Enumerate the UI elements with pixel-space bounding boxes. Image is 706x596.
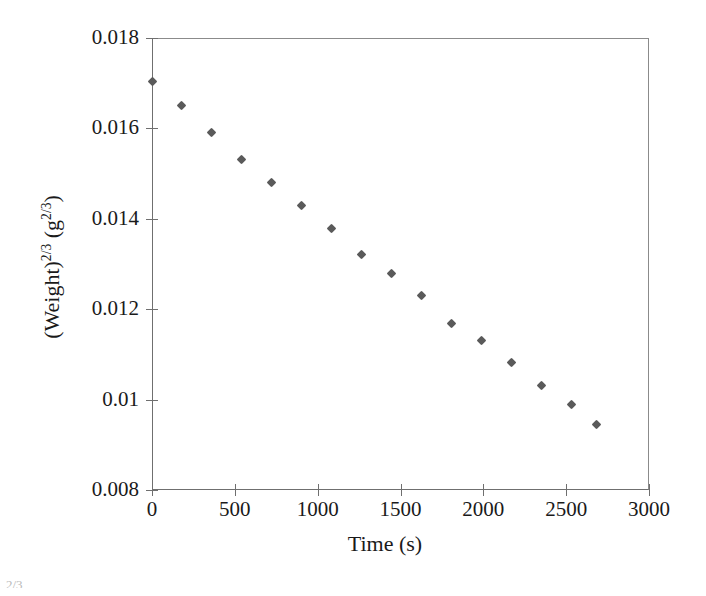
y-axis-tick: [146, 400, 158, 401]
x-axis-title-text: Time (s): [348, 531, 422, 556]
x-axis-tick: [483, 484, 484, 496]
scan-artifact-text: 2/3: [6, 578, 23, 588]
y-axis-title-exponent-1: 2/3: [39, 244, 54, 261]
y-axis-title: (Weight)2/3 (g2/3): [37, 41, 63, 493]
plot-frame: [152, 38, 649, 490]
y-axis-tick: [146, 309, 158, 310]
y-axis-tick: [146, 219, 158, 220]
y-axis-tick: [146, 128, 158, 129]
x-axis-tick: [152, 484, 153, 496]
y-axis-title-base: (Weight): [39, 261, 64, 339]
figure-scatter-plot: 0.0080.010.0120.0140.0160.018 0500100015…: [0, 0, 706, 596]
x-axis-title: Time (s): [0, 531, 706, 557]
y-axis-title-tail: ): [39, 195, 64, 202]
x-axis-tick: [649, 484, 650, 496]
x-axis-tick: [235, 484, 236, 496]
y-axis-title-text: (Weight)2/3 (g2/3): [39, 195, 64, 339]
x-axis-tick: [566, 484, 567, 496]
y-axis-tick: [146, 38, 158, 39]
y-axis-tick-label: 0.014: [0, 208, 139, 229]
x-axis-tick: [318, 484, 319, 496]
y-axis-tick-label: 0.012: [0, 298, 139, 319]
y-axis-title-exponent-2: 2/3: [39, 203, 54, 220]
y-axis-title-mid: (g: [39, 220, 64, 244]
y-axis-tick-label: 0.01: [0, 389, 139, 410]
y-axis-tick-label: 0.018: [0, 27, 139, 48]
x-axis-tick-label: 3000: [589, 497, 706, 521]
x-axis-tick: [401, 484, 402, 496]
y-axis-tick-label: 0.016: [0, 117, 139, 138]
